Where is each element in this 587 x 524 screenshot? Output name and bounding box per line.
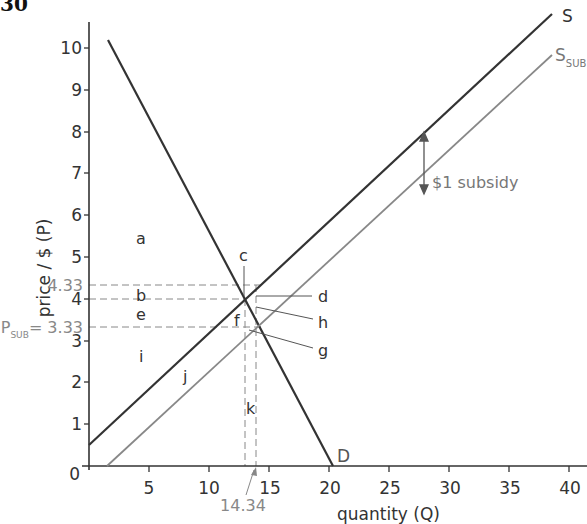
q14-34-arrowhead-icon — [251, 467, 257, 476]
curve-label-ssub: SSUB — [555, 45, 586, 69]
supply-curve-ssub — [107, 55, 552, 466]
supply-demand-subsidy-chart: 10 9 8 7 6 5 4 3 2 1 0 5 10 15 20 25 30 … — [0, 0, 587, 524]
subsidy-label: $1 subsidy — [432, 173, 518, 192]
x-tick-20: 20 — [319, 478, 341, 498]
x-tick-25: 25 — [379, 478, 401, 498]
price-label-psub: PSUB= 3.33 — [1, 318, 83, 340]
demand-curve — [108, 40, 333, 466]
area-label-f: f — [234, 311, 240, 330]
x-axis-title: quantity (Q) — [337, 504, 440, 524]
y-tick-7: 7 — [71, 163, 82, 183]
y-tick-6: 6 — [71, 205, 82, 225]
area-label-k: k — [246, 399, 256, 418]
supply-curve-s — [89, 14, 552, 445]
area-label-i: i — [139, 347, 143, 366]
x-tick-30: 30 — [439, 478, 461, 498]
x-tick-10: 10 — [198, 478, 220, 498]
area-label-a: a — [136, 229, 146, 248]
area-label-c: c — [239, 246, 248, 265]
area-label-b: b — [136, 286, 146, 305]
origin-label: 0 — [69, 464, 80, 484]
y-tick-10: 10 — [60, 38, 82, 58]
x-tick-5: 5 — [144, 478, 155, 498]
ticks — [84, 48, 569, 472]
subsidy-arrow-icon — [420, 132, 428, 194]
y-tick-2: 2 — [71, 372, 82, 392]
axes — [82, 22, 587, 470]
x-tick-labels: 5 10 15 20 25 30 35 40 — [144, 478, 581, 498]
area-label-d: d — [318, 287, 328, 306]
q14-34-label: 14.34 — [220, 496, 266, 515]
y-axis-title: price / $ (P) — [34, 219, 54, 318]
x-tick-15: 15 — [259, 478, 281, 498]
y-tick-1: 1 — [71, 414, 82, 434]
y-tick-5: 5 — [71, 247, 82, 267]
x-tick-35: 35 — [499, 478, 521, 498]
y-tick-9: 9 — [71, 80, 82, 100]
area-label-e: e — [136, 305, 146, 324]
area-label-j: j — [182, 367, 187, 386]
curve-label-s: S — [562, 6, 573, 26]
area-label-h: h — [318, 313, 328, 332]
area-label-g: g — [318, 341, 328, 360]
price-label-4-33: 4.33 — [47, 276, 83, 295]
y-tick-8: 8 — [71, 122, 82, 142]
curve-label-d: D — [337, 446, 350, 466]
x-tick-40: 40 — [559, 478, 581, 498]
area-labels: a b c d e f g h i j k — [136, 229, 328, 418]
y-tick-labels: 10 9 8 7 6 5 4 3 2 1 0 — [60, 38, 82, 484]
